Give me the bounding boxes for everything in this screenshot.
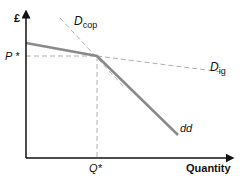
- quantity-label: Q*: [89, 162, 103, 174]
- y-axis-label: £: [14, 12, 20, 24]
- dd-label: dd: [180, 122, 193, 134]
- dig-label: Dig: [210, 60, 226, 76]
- kinked-demand-diagram: £ P * Q* Quantity Dcop Dig dd: [0, 0, 241, 182]
- dcop-label: Dcop: [74, 14, 97, 30]
- dig-curve: [97, 56, 222, 72]
- price-label: P *: [5, 50, 20, 62]
- x-axis-label: Quantity: [186, 162, 231, 174]
- dd-curve: [26, 43, 178, 135]
